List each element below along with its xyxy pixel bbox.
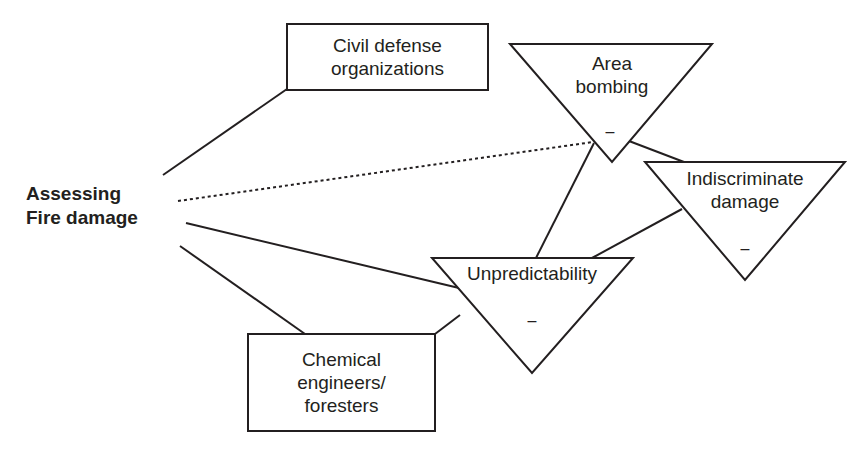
- issue-unpredictability-valence: –: [522, 313, 542, 329]
- link-area-unpredictability: [536, 143, 594, 258]
- issue-area-valence: –: [600, 124, 620, 140]
- link-area-indiscriminate: [629, 141, 684, 162]
- issue-area-line2: bombing: [540, 75, 684, 98]
- issue-indiscriminate-line2: damage: [670, 190, 820, 213]
- actor-chemical-line2: engineers/: [297, 371, 386, 394]
- central-node-assessing-fire-damage: Assessing Fire damage: [26, 182, 138, 230]
- link-assessing-civil: [163, 89, 287, 175]
- link-assessing-area-bombing: [178, 142, 593, 201]
- issue-area-bombing-label: Area bombing: [540, 52, 684, 98]
- actor-box-chemical-engineers: Chemical engineers/ foresters: [247, 333, 436, 432]
- issue-indiscriminate-valence: –: [735, 241, 755, 257]
- issue-indiscriminate-line1: Indiscriminate: [670, 167, 820, 190]
- central-node-line2: Fire damage: [26, 206, 138, 230]
- actor-chemical-line3: foresters: [297, 394, 386, 417]
- link-chemical-unpredictability: [435, 315, 460, 334]
- link-indiscriminate-unpredictability: [592, 209, 682, 258]
- actor-civil-line1: Civil defense: [331, 34, 444, 57]
- link-assessing-chemical: [180, 246, 305, 334]
- issue-indiscriminate-damage-label: Indiscriminate damage: [670, 167, 820, 213]
- issue-area-line1: Area: [540, 52, 684, 75]
- issue-unpredictability-label: Unpredictability: [452, 262, 612, 285]
- issue-unpredictability-line1: Unpredictability: [452, 262, 612, 285]
- actor-chemical-line1: Chemical: [297, 348, 386, 371]
- actor-box-civil-defense: Civil defense organizations: [286, 23, 489, 91]
- central-node-line1: Assessing: [26, 182, 138, 206]
- actor-civil-line2: organizations: [331, 57, 444, 80]
